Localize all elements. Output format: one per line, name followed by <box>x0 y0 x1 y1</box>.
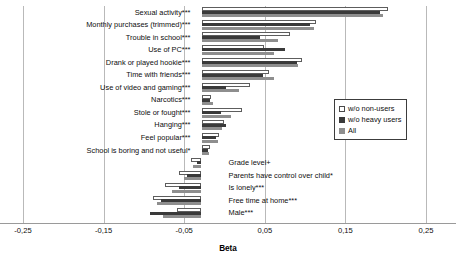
category-label: Time with friends*** <box>126 70 190 79</box>
bar-group <box>0 7 403 20</box>
bar-all <box>163 215 202 218</box>
category-label: Use of video and gaming*** <box>100 83 190 92</box>
bar-all <box>172 190 201 193</box>
category-label: Grade level+ <box>229 158 271 167</box>
category-label: School is boring and not useful* <box>87 146 191 155</box>
bar-group <box>0 158 403 171</box>
x-tick-label: 0,15 <box>325 226 365 235</box>
x-tick-label: -0,25 <box>3 226 43 235</box>
bar-all <box>202 27 315 30</box>
legend-label-all: All <box>348 126 356 135</box>
bar-group <box>0 170 403 183</box>
bar-all <box>202 52 275 55</box>
legend-swatch-all <box>339 128 345 134</box>
category-label: Narcotics*** <box>151 95 190 104</box>
x-tick-label: -0,05 <box>164 226 204 235</box>
bar-group <box>0 32 403 45</box>
bar-all <box>202 77 275 80</box>
chart-container: Sexual activity***Monthly purchases (tri… <box>0 0 456 271</box>
x-tick-label: -0,15 <box>84 226 124 235</box>
bar-group <box>0 145 403 158</box>
bar-all <box>202 115 231 118</box>
bar-all <box>202 127 223 130</box>
bar-group <box>0 82 403 95</box>
x-tick-label: 0,25 <box>406 226 446 235</box>
category-label: Male*** <box>229 208 254 217</box>
bar-all <box>193 165 201 168</box>
legend-item-wo-non-users: w/o non-users <box>339 103 401 114</box>
legend-swatch-wo-non-users <box>339 106 345 112</box>
bar-group <box>0 45 403 58</box>
bar-group <box>0 57 403 70</box>
category-label: Trouble in school*** <box>126 33 191 42</box>
bar-group <box>0 208 403 221</box>
legend-label-wo-heavy-users: w/o heavy users <box>348 115 401 124</box>
category-label: Monthly purchases (trimmed)*** <box>86 20 190 29</box>
bar-all <box>202 102 213 105</box>
bar-group <box>0 70 403 83</box>
legend-swatch-wo-heavy-users <box>339 117 345 123</box>
category-label: Parents have control over child* <box>229 171 333 180</box>
chart-legend: w/o non-users w/o heavy users All <box>334 99 407 140</box>
bar-all <box>157 202 201 205</box>
gridline-5 <box>426 6 427 223</box>
legend-label-wo-non-users: w/o non-users <box>348 104 394 113</box>
x-axis-title: Beta <box>0 244 456 253</box>
bar-all <box>202 14 383 17</box>
x-axis-line <box>0 223 456 224</box>
bar-all <box>184 177 202 180</box>
bar-all <box>202 89 239 92</box>
category-label: Stole or fought*** <box>134 108 191 117</box>
bar-group <box>0 195 403 208</box>
bar-all <box>202 39 279 42</box>
category-label: Free time at home*** <box>229 196 298 205</box>
category-label: Feel popular*** <box>141 133 191 142</box>
bar-all <box>202 140 218 143</box>
category-label: Is lonely*** <box>229 183 265 192</box>
bar-all <box>202 152 209 155</box>
bar-group <box>0 20 403 33</box>
category-label: Use of PC*** <box>148 45 190 54</box>
category-label: Hanging*** <box>154 120 190 129</box>
legend-item-wo-heavy-users: w/o heavy users <box>339 114 401 125</box>
legend-item-all: All <box>339 125 401 136</box>
bar-group <box>0 183 403 196</box>
category-label: Sexual activity*** <box>135 8 191 17</box>
bar-all <box>202 64 299 67</box>
x-tick-label: 0,05 <box>245 226 285 235</box>
category-label: Drank or played hookie*** <box>106 58 191 67</box>
